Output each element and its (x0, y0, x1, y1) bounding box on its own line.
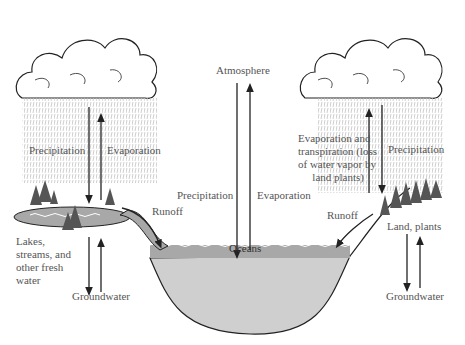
right-precipitation-label: Precipitation (388, 143, 444, 156)
left-cloud-icon (16, 39, 157, 183)
land-plants-label: Land, plants (387, 220, 441, 233)
left-groundwater-label: Groundwater (72, 290, 130, 303)
right-groundwater-label: Groundwater (386, 290, 444, 303)
center-precipitation-label: Precipitation (177, 189, 233, 202)
ocean-basin (150, 188, 410, 334)
atmosphere-label: Atmosphere (216, 64, 270, 77)
lakes-label: Lakes, streams, and other fresh water (16, 235, 71, 287)
left-precipitation-label: Precipitation (29, 144, 85, 157)
left-runoff-label: Runoff (152, 205, 183, 218)
right-runoff-label: Runoff (327, 209, 358, 222)
left-evaporation-label: Evaporation (107, 144, 161, 157)
center-evaporation-label: Evaporation (257, 189, 311, 202)
right-evapotranspiration-label: Evaporation and transpiration (loss of w… (298, 132, 364, 184)
oceans-label: Oceans (229, 242, 261, 255)
